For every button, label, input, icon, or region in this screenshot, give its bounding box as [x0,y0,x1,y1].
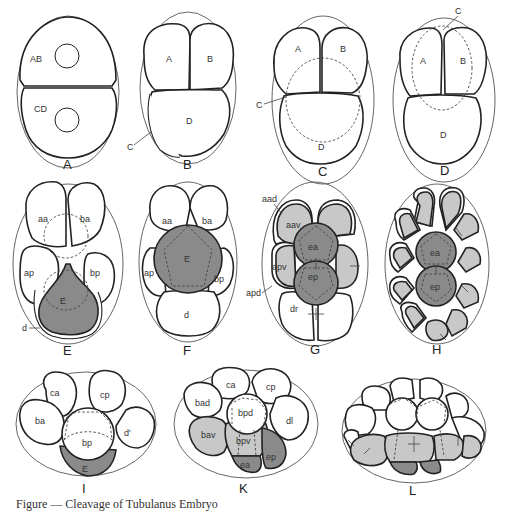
cell-label: cp [266,382,276,392]
cell-label: C [127,142,134,152]
cell-label: A [166,54,172,64]
panel-label: L [409,483,416,498]
cell-label: bpd [238,408,253,418]
cell-label: ap [144,268,154,278]
panel-f: aa ba ap bp E d F [139,182,237,358]
panel-g: aad aav ea apv ep apd apd dr G [246,182,368,357]
cell-label: ep [308,272,318,282]
cell-label: E [60,296,66,306]
cell-label: ea [430,248,440,258]
cell-label: E [184,254,190,264]
cell-label: C [455,6,462,16]
cell-label: ca [50,388,60,398]
cell-label: ap [24,268,34,278]
cell-label: aad [262,194,277,204]
cell-label: dl [286,416,293,426]
cell-label: C [256,100,263,110]
cell-label: dr [290,304,298,314]
cell-label: ba [35,416,45,426]
cell-label: cp [100,390,110,400]
cell-label: ca [226,380,236,390]
panel-label: I [82,481,86,496]
panel-label: B [183,157,192,172]
cell-label: bpv [236,436,251,446]
cell-label: ba [80,214,90,224]
cell-label: bp [82,438,92,448]
panel-label: C [318,164,327,179]
cell-label: bp [214,274,224,284]
cell-label: A [420,56,426,66]
panel-label: G [310,342,320,357]
panel-k: ca cp bad bpd dl bav bpv ea ep K [174,368,318,497]
cell-label: A [295,44,301,54]
panel-label: F [183,343,191,358]
panel-label: E [63,343,72,358]
cell-label: B [340,44,346,54]
panel-label: D [440,163,449,178]
cell-label: D [186,116,193,126]
cell-label: E [82,464,88,474]
cell-label: ea [308,242,318,252]
cell-label: aa [38,214,48,224]
panel-c: A B C D C [256,16,374,184]
panel-h: ea ep H [385,184,489,357]
cell-label: aa [162,216,172,226]
cell-label: ep [266,452,276,462]
panel-label: A [63,157,72,172]
cell-label: d' [124,428,131,438]
panel-label: K [239,481,248,496]
cell-label: apd [246,288,261,298]
cell-label: B [460,56,466,66]
cell-label: ea [240,460,250,470]
panel-e: aa ba ap bp E d E [13,182,123,358]
panel-b: A B C D B [127,12,236,172]
cell-label: aav [286,220,301,230]
cell-label: d [22,323,27,333]
cell-label: D [440,130,447,140]
cell-label: apv [272,262,287,272]
cell-label: B [207,54,213,64]
cell-label: D [318,142,325,152]
panel-d: A B C D D [393,6,495,182]
cell-label: d [184,310,189,320]
panel-i: ca cp ba d' bp E I [16,370,156,496]
cell-label: bav [201,430,216,440]
cell-label: ep [430,282,440,292]
panel-l: L [342,378,486,498]
cell-label: bp [90,268,100,278]
panel-a: AB CD A [17,16,119,172]
cell-label: bad [195,398,210,408]
cell-label: ba [202,216,212,226]
figure-caption: Figure — Cleavage of Tubulanus Embryo [16,497,218,512]
cell-label: AB [30,54,42,64]
panel-label: H [432,342,441,357]
cell-label: CD [34,104,47,114]
